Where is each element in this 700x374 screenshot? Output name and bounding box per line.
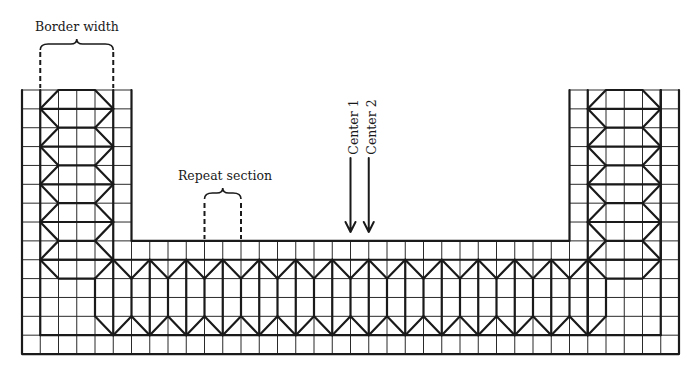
band-motif [132, 260, 150, 279]
band-motif [241, 260, 259, 279]
band-motif [332, 316, 350, 335]
border-width-annotation: Border width [35, 19, 119, 88]
band-motif [424, 316, 442, 335]
band-motif [588, 260, 606, 279]
band-motif [515, 316, 533, 335]
band-motif [150, 260, 168, 279]
band-motif [405, 316, 423, 335]
band-motif [332, 260, 350, 279]
band-motif [460, 316, 478, 335]
band-motif [351, 260, 369, 279]
band-motif [223, 260, 241, 279]
band-motif [278, 260, 296, 279]
band-motif [478, 316, 496, 335]
center-1-marker: Center 1 [346, 99, 362, 232]
band-motif [205, 316, 223, 335]
band-motif [186, 316, 204, 335]
center-2-label: Center 2 [364, 99, 379, 154]
band-motif [369, 260, 387, 279]
band-motif [588, 316, 606, 335]
band-motif [259, 316, 277, 335]
band-motif [168, 316, 186, 335]
border-width-brace [40, 39, 113, 50]
band-motif [95, 316, 113, 335]
band-motif [351, 316, 369, 335]
band-motif [533, 316, 551, 335]
band-motif [442, 316, 460, 335]
band-motif [113, 316, 131, 335]
down-arrow-icon [364, 158, 374, 232]
band-motif [405, 260, 423, 279]
band-motif [369, 316, 387, 335]
band-motif [533, 260, 551, 279]
band-motif [223, 316, 241, 335]
corner-motif [40, 260, 95, 279]
band-motif [515, 260, 533, 279]
band-motif [132, 316, 150, 335]
band-motif [551, 316, 569, 335]
band-motif [460, 260, 478, 279]
band-motif [150, 316, 168, 335]
band-motif [442, 260, 460, 279]
band-motif [570, 260, 588, 279]
band-motif [259, 260, 277, 279]
band-motif [113, 260, 131, 279]
band-motif [424, 260, 442, 279]
band-motif [314, 260, 332, 279]
band-motif [296, 316, 314, 335]
border-width-label: Border width [35, 19, 119, 34]
band-motif [278, 316, 296, 335]
band-motif [241, 316, 259, 335]
band-motif [205, 260, 223, 279]
center-2-marker: Center 2 [364, 99, 380, 232]
band-motif [570, 316, 588, 335]
band-motif [186, 260, 204, 279]
band-motif [387, 316, 405, 335]
repeat-section-annotation: Repeat section [178, 168, 272, 239]
band-motif [314, 316, 332, 335]
band-motif [497, 316, 515, 335]
down-arrow-icon [346, 158, 356, 232]
band-motif [168, 260, 186, 279]
repeat-section-label: Repeat section [178, 168, 272, 183]
repeat-section-brace [205, 188, 242, 199]
band-motif [296, 260, 314, 279]
band-motif [478, 260, 496, 279]
corner-motif [606, 260, 661, 279]
border-chart-diagram: Border width Repeat section Center 1 Cen… [0, 0, 700, 374]
band-motif [497, 260, 515, 279]
band-motif [95, 260, 113, 279]
center-1-label: Center 1 [346, 99, 361, 154]
band-motif [387, 260, 405, 279]
band-motif [551, 260, 569, 279]
